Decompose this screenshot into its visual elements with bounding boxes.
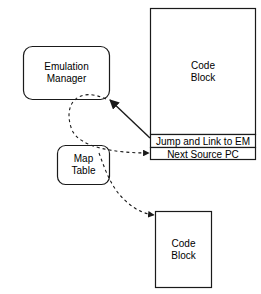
map-table-shape xyxy=(58,146,110,185)
emulation-manager-shape xyxy=(24,47,110,100)
next-source-pc-row-shape xyxy=(151,148,256,160)
diagram-canvas: Emulation Manager Map Table Code Block J… xyxy=(0,0,261,294)
jump-and-link-row-shape xyxy=(151,135,256,148)
code-block-top-shape xyxy=(151,9,256,135)
code-block-bottom-shape xyxy=(156,212,212,288)
diagram-vector-layer xyxy=(0,0,261,294)
jump-and-link-to-em-arrow xyxy=(110,100,150,138)
next-source-pc-arrow xyxy=(69,95,149,153)
